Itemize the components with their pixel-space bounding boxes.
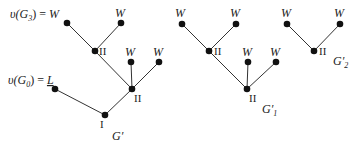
node-w bbox=[156, 59, 163, 66]
edge bbox=[247, 62, 276, 89]
label-w: W bbox=[115, 6, 126, 20]
label-w: W bbox=[242, 45, 253, 59]
node-w bbox=[64, 20, 71, 27]
annotation-v-g0: υ(G0) = L bbox=[8, 73, 54, 89]
edge bbox=[182, 24, 209, 51]
annotation-v-g3: υ(G3) = W bbox=[10, 7, 60, 23]
label-w: W bbox=[281, 6, 292, 20]
edge bbox=[314, 24, 340, 51]
label-ii: II bbox=[249, 92, 257, 104]
node-ii bbox=[92, 48, 99, 55]
node-ii bbox=[311, 48, 318, 55]
tree-title-g1-prime: G′1 bbox=[262, 102, 277, 118]
tree-g1-prime: W W II W W II G′1 bbox=[175, 6, 281, 118]
tree-title-g-prime: G′ bbox=[112, 129, 124, 143]
edge bbox=[132, 62, 159, 89]
tree-title-g2-prime: G′2 bbox=[333, 54, 348, 70]
node-w bbox=[233, 21, 240, 28]
node-w bbox=[118, 20, 125, 27]
edge bbox=[131, 62, 132, 89]
label-ii: II bbox=[319, 45, 327, 57]
label-w: W bbox=[334, 6, 345, 20]
label-w: W bbox=[270, 45, 281, 59]
node-w bbox=[284, 21, 291, 28]
label-i: I bbox=[100, 118, 104, 130]
edge bbox=[105, 89, 132, 115]
edge bbox=[67, 23, 95, 51]
label-ii: II bbox=[99, 45, 107, 57]
label-ii: II bbox=[134, 92, 142, 104]
node-w bbox=[245, 59, 252, 66]
edge bbox=[287, 24, 314, 51]
label-w: W bbox=[153, 45, 164, 59]
edge bbox=[247, 62, 248, 89]
label-w: W bbox=[125, 45, 136, 59]
label-w: W bbox=[175, 6, 186, 20]
tree-g-prime: υ(G3) = W W II W W II υ(G0) = L I G′ bbox=[8, 6, 164, 143]
edge bbox=[55, 89, 105, 115]
game-trees-diagram: υ(G3) = W W II W W II υ(G0) = L I G′ W W… bbox=[0, 0, 357, 148]
label-ii: II bbox=[214, 45, 222, 57]
node-w bbox=[273, 59, 280, 66]
node-w bbox=[337, 21, 344, 28]
tree-g2-prime: W W II G′2 bbox=[281, 6, 348, 70]
label-w: W bbox=[230, 6, 241, 20]
node-ii bbox=[206, 48, 213, 55]
node-w bbox=[128, 59, 135, 66]
node-w bbox=[179, 21, 186, 28]
